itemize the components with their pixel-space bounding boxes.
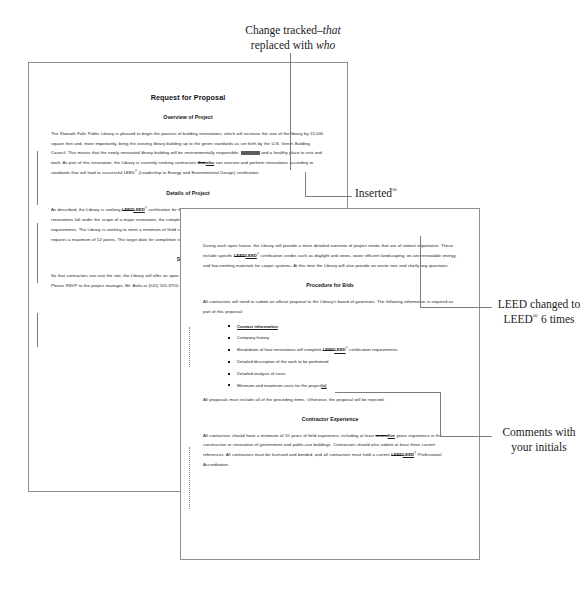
registered-mark: ® xyxy=(257,252,259,256)
list-item: Detailed analysis of costs xyxy=(237,371,457,376)
deleted-text: that xyxy=(198,160,206,165)
list-item: Minimum and maximum costs for the projec… xyxy=(237,383,457,388)
change-bar-details xyxy=(37,223,38,283)
section-heading-contractor-experience: Contractor Experience xyxy=(203,416,457,422)
annotation-comments-initials: Comments with your initials xyxy=(492,424,582,455)
annotation-leed-changed: LEED changed to LEED® 6 times xyxy=(492,296,582,327)
annotation-inserted-sup: ® xyxy=(392,186,397,194)
annotation-tracked-line2: replaced with xyxy=(251,39,316,51)
list-item: Detailed description of the work to be p… xyxy=(237,359,457,364)
inserted-text: LEED xyxy=(334,348,345,353)
paragraph-overview: The Klamath Falls Public Library is plea… xyxy=(51,129,325,178)
leader-line-tracked-vertical xyxy=(290,52,291,170)
proposal-requirements-list: Contact informationCompany historyBreakd… xyxy=(203,324,457,388)
inserted-text: Contact information xyxy=(237,324,278,329)
leader-line-leed-vertical xyxy=(420,236,421,307)
annotation-comments-line1: Comments with xyxy=(502,426,575,438)
list-item: Breakdown of how renovations will comple… xyxy=(237,347,457,353)
annotation-comments-line2: your initials xyxy=(511,441,566,453)
leader-line-leed-horizontal xyxy=(420,307,492,308)
registered-mark: ® xyxy=(135,169,137,173)
deleted-text: LEED xyxy=(234,253,245,258)
annotation-leed-line1: LEED changed to xyxy=(498,298,580,310)
change-bar-site-tour xyxy=(37,313,38,347)
inserted-text: LEED xyxy=(403,452,414,457)
paragraph-procedure-intro: All contractors will need to submit an o… xyxy=(203,297,457,316)
annotation-change-tracked: Change tracked–that replaced with who xyxy=(205,22,381,53)
leader-line-comments-horizontal xyxy=(440,436,492,437)
paragraph-open-house: During each open house, the Library will… xyxy=(203,241,457,270)
deleted-text: LEED xyxy=(323,348,334,353)
section-heading-details: Details of Project xyxy=(51,190,325,196)
registered-mark: ® xyxy=(414,451,416,455)
inserted-text: five xyxy=(388,433,395,438)
leader-line-comments-vertical xyxy=(440,392,441,436)
front-page-body: During each open house, the Library will… xyxy=(181,209,479,559)
inserted-text: (s) xyxy=(321,383,326,388)
section-heading-overview: Overview of Project xyxy=(51,114,325,120)
inserted-text: LEED xyxy=(133,207,144,212)
annotation-leed-line2b: 6 times xyxy=(538,313,574,325)
list-item: Contact information xyxy=(237,324,457,329)
document-title: Request for Proposal xyxy=(51,93,325,102)
deleted-text: LEED xyxy=(122,207,133,212)
change-bar-overview xyxy=(37,151,38,205)
annotation-tracked-em2: who xyxy=(316,39,335,51)
list-item: Company history xyxy=(237,335,457,340)
annotation-leed-line2a: LEED xyxy=(503,313,532,325)
inserted-text: LEED xyxy=(245,253,256,258)
inserted-text: who xyxy=(206,160,215,165)
document-page-front[interactable]: During each open house, the Library will… xyxy=(180,208,480,560)
section-heading-procedure: Procedure for Bids xyxy=(203,282,457,288)
paragraph-procedure-closing: All proposals must include all of the pr… xyxy=(203,395,457,405)
paragraph-contractor-experience: All contractors should have a minimum of… xyxy=(203,431,457,470)
deleted-text: seven xyxy=(375,433,387,438)
annotation-inserted-symbol: Inserted® xyxy=(352,185,468,202)
deleted-text: LEED xyxy=(391,452,402,457)
annotation-inserted-text: Inserted xyxy=(355,187,392,199)
redacted-text: profitable xyxy=(241,151,260,154)
change-bar-list xyxy=(189,327,190,367)
leader-line-inserted-horizontal xyxy=(305,196,353,197)
annotation-tracked-line1: Change tracked– xyxy=(245,24,323,36)
leader-line-comments-branch xyxy=(335,392,440,393)
annotation-tracked-em1: that xyxy=(323,24,341,36)
registered-mark: ® xyxy=(346,346,348,350)
change-bar-experience xyxy=(189,447,190,509)
leader-line-inserted-vertical xyxy=(305,172,306,196)
registered-mark: ® xyxy=(145,206,147,210)
